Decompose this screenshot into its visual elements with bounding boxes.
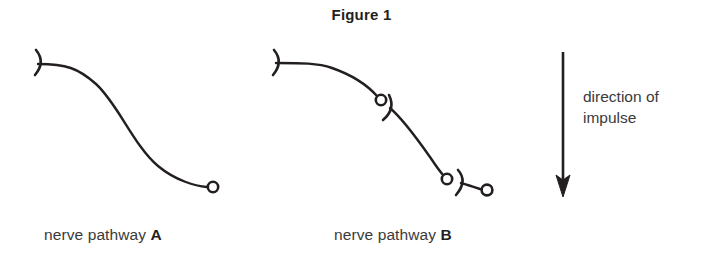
axon-curve <box>38 64 207 187</box>
caption-pathway-b: nerve pathway B <box>334 226 452 244</box>
dendrite-bracket-icon <box>35 50 41 75</box>
pathway-a-group <box>35 50 218 192</box>
caption-pathway-b-text: nerve pathway <box>334 226 441 243</box>
caption-pathway-a-id: A <box>151 226 162 243</box>
impulse-direction-line-1: direction of <box>583 86 659 107</box>
impulse-direction-line-2: impulse <box>583 107 659 128</box>
axon-curve-2 <box>390 108 444 176</box>
caption-pathway-a: nerve pathway A <box>44 226 162 244</box>
axon-terminal-circle-1 <box>376 95 386 105</box>
axon-terminal-circle-2 <box>442 174 452 184</box>
pathway-b-group <box>273 50 492 195</box>
impulse-arrow-group <box>556 52 570 197</box>
impulse-direction-label: direction of impulse <box>583 86 659 128</box>
caption-pathway-a-text: nerve pathway <box>44 226 151 243</box>
figure-container: Figure 1 <box>0 0 723 278</box>
axon-curve-1 <box>276 63 377 96</box>
axon-curve-3 <box>461 183 480 189</box>
caption-pathway-b-id: B <box>441 226 452 243</box>
axon-terminal-circle-3 <box>482 185 493 196</box>
axon-terminal-circle <box>208 182 218 192</box>
